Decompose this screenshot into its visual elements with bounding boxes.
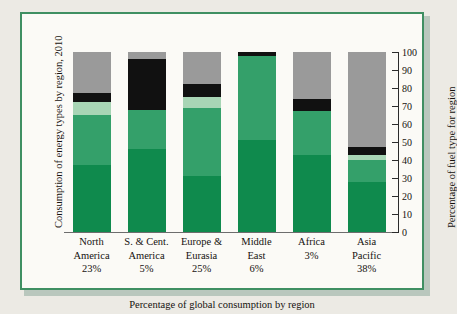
bar-europe-eurasia[interactable] bbox=[183, 52, 221, 232]
segment-gray bbox=[348, 52, 386, 147]
y-axis-tick-label: 80 bbox=[402, 88, 412, 89]
segment-medium-green bbox=[348, 160, 386, 182]
segment-black bbox=[348, 147, 386, 154]
y-axis-tick bbox=[392, 124, 399, 125]
segment-dark-green bbox=[73, 165, 111, 232]
segment-medium-green bbox=[183, 108, 221, 176]
y-axis-tick-label: 70 bbox=[402, 106, 412, 107]
y-axis-tick bbox=[392, 196, 399, 197]
bar-middle-east[interactable] bbox=[238, 52, 276, 232]
y-axis-right-title: Percentage of fuel type for region bbox=[446, 87, 457, 228]
y-axis-tick-label: 10 bbox=[402, 214, 412, 215]
segment-light-green bbox=[348, 155, 386, 160]
segment-black bbox=[128, 59, 166, 109]
y-axis-tick bbox=[392, 232, 399, 233]
y-axis-tick bbox=[392, 214, 399, 215]
segment-dark-green bbox=[183, 176, 221, 232]
segment-gray bbox=[183, 52, 221, 84]
bar-north-america[interactable] bbox=[73, 52, 111, 232]
y-axis-tick bbox=[392, 178, 399, 179]
segment-medium-green bbox=[128, 110, 166, 150]
segment-light-green bbox=[183, 97, 221, 108]
segment-black bbox=[183, 84, 221, 97]
y-axis-tick bbox=[392, 88, 399, 89]
y-axis-tick-label: 40 bbox=[402, 160, 412, 161]
segment-light-green bbox=[73, 102, 111, 115]
segment-gray bbox=[128, 52, 166, 59]
y-axis-tick bbox=[392, 142, 399, 143]
segment-dark-green bbox=[293, 155, 331, 232]
category-label-asia-pacific: AsiaPacific38% bbox=[329, 235, 405, 276]
y-axis-tick-label: 100 bbox=[402, 52, 417, 53]
y-axis-tick-label: 50 bbox=[402, 142, 412, 143]
y-axis-tick-label: 90 bbox=[402, 70, 412, 71]
segment-medium-green bbox=[73, 115, 111, 165]
y-axis-tick-label: 30 bbox=[402, 178, 412, 179]
x-axis-baseline bbox=[64, 232, 398, 233]
segment-dark-green bbox=[238, 140, 276, 232]
category-label-line: Asia bbox=[329, 235, 405, 249]
y-axis-tick-label: 60 bbox=[402, 124, 412, 125]
bar-s-cent-america[interactable] bbox=[128, 52, 166, 232]
segment-gray bbox=[73, 52, 111, 93]
segment-black bbox=[73, 93, 111, 102]
segment-dark-green bbox=[348, 182, 386, 232]
y-axis-tick-label: 20 bbox=[402, 196, 412, 197]
y-axis-tick bbox=[392, 160, 399, 161]
x-axis-title: Percentage of global consumption by regi… bbox=[22, 299, 422, 310]
bar-asia-pacific[interactable] bbox=[348, 52, 386, 232]
segment-medium-green bbox=[238, 56, 276, 141]
y-axis-left-title: Consumption of energy types by region, 2… bbox=[53, 35, 64, 228]
bar-africa[interactable] bbox=[293, 52, 331, 232]
plot-area bbox=[64, 52, 394, 232]
y-axis-tick bbox=[392, 70, 399, 71]
segment-gray bbox=[293, 52, 331, 99]
y-axis-tick bbox=[392, 52, 399, 53]
segment-dark-green bbox=[128, 149, 166, 232]
chart-card: Consumption of energy types by region, 2… bbox=[20, 12, 424, 290]
segment-black bbox=[293, 99, 331, 112]
category-label-line: Pacific bbox=[329, 249, 405, 263]
category-label-line: 38% bbox=[329, 262, 405, 276]
y-axis-tick bbox=[392, 106, 399, 107]
category-label-line: 6% bbox=[219, 262, 295, 276]
y-axis-tick-label: 0 bbox=[402, 232, 407, 233]
segment-black bbox=[238, 52, 276, 56]
segment-medium-green bbox=[293, 111, 331, 154]
